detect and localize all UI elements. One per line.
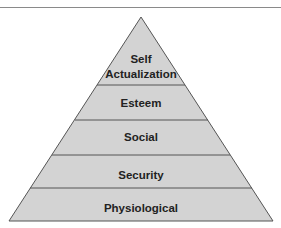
- layer-self-actualization-line1: Self: [130, 53, 151, 65]
- pyramid-diagram: Self Actualization Esteem Social Securit…: [0, 0, 281, 228]
- layer-security-label: Security: [118, 169, 164, 181]
- layer-social-label: Social: [124, 131, 158, 143]
- pyramid-shape: [9, 17, 273, 221]
- layer-physiological-label: Physiological: [104, 202, 178, 214]
- layer-esteem-label: Esteem: [121, 97, 162, 109]
- layer-self-actualization-line2: Actualization: [105, 68, 177, 80]
